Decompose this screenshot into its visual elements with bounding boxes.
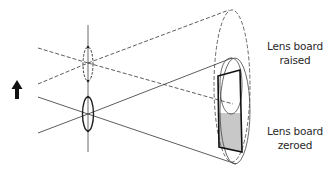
label-raised-line2: raised (262, 53, 328, 67)
inner-coverage-ellipse (220, 58, 242, 114)
label-lens-board-zeroed: Lens board zeroed (262, 124, 328, 152)
label-zeroed-line1: Lens board (262, 124, 328, 138)
raised-lens (83, 47, 93, 81)
label-zeroed-line2: zeroed (262, 138, 328, 152)
raised-lens-rays (38, 10, 233, 104)
zeroed-lens-rays (38, 58, 236, 164)
arrow-up-icon (12, 80, 23, 99)
shaded-coverage-area (219, 113, 242, 152)
label-lens-board-raised: Lens board raised (262, 39, 328, 67)
label-raised-line1: Lens board (262, 39, 328, 53)
